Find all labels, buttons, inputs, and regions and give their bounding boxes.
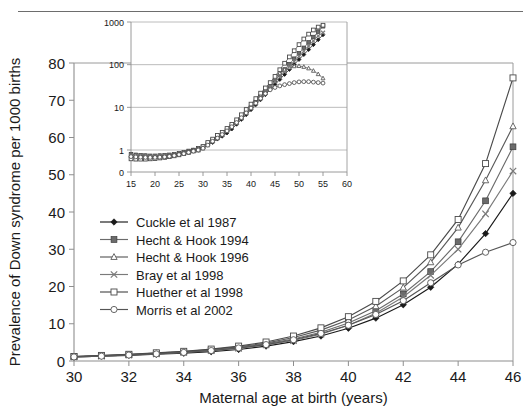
data-point-marker	[225, 129, 229, 133]
legend-item-5[interactable]: Morris et al 2002	[100, 303, 233, 318]
data-point-marker	[278, 84, 282, 88]
legend-item-3[interactable]: Bray et al 1998	[100, 268, 223, 283]
data-point-marker	[510, 190, 516, 196]
data-point-marker	[208, 347, 214, 353]
data-point-marker	[129, 155, 133, 159]
data-point-marker	[236, 345, 242, 351]
main-x-tick-label: 34	[175, 368, 192, 385]
data-point-marker	[345, 322, 351, 328]
data-point-marker	[307, 41, 311, 45]
main-x-axis-title: Maternal age at birth (years)	[199, 389, 387, 406]
main-x-tick-label: 38	[285, 368, 302, 385]
data-point-marker	[316, 81, 320, 85]
inset-x-tick-label: 15	[126, 179, 136, 189]
data-point-marker	[288, 55, 292, 59]
data-point-marker	[428, 252, 434, 258]
data-point-marker	[312, 35, 316, 39]
main-y-tick-label: 0	[57, 353, 65, 370]
data-point-marker	[215, 136, 219, 140]
data-point-marker	[292, 49, 296, 53]
main-x-tick-label: 36	[230, 368, 247, 385]
legend-item-2[interactable]: Hecht & Hook 1996	[100, 250, 249, 265]
data-point-marker	[111, 289, 117, 295]
data-point-marker	[196, 148, 200, 152]
data-point-marker	[510, 75, 516, 81]
data-point-marker	[254, 101, 258, 105]
inset-x-tick-label: 60	[342, 179, 352, 189]
data-point-marker	[111, 306, 117, 312]
data-point-marker	[455, 216, 461, 222]
data-point-marker	[111, 219, 117, 225]
legend-label: Morris et al 2002	[136, 303, 233, 318]
data-point-marker	[307, 32, 311, 36]
inset-x-tick-label: 25	[174, 179, 184, 189]
data-point-marker	[263, 342, 269, 348]
data-point-marker	[230, 125, 234, 129]
main-x-tick-label: 42	[395, 368, 412, 385]
data-point-marker	[182, 152, 186, 156]
data-point-marker	[263, 92, 267, 96]
data-point-marker	[259, 96, 263, 100]
data-point-marker	[455, 246, 461, 252]
data-point-marker	[191, 149, 195, 153]
data-point-marker	[302, 37, 306, 41]
data-point-marker	[259, 91, 263, 95]
data-point-marker	[249, 102, 253, 106]
data-point-marker	[249, 106, 253, 110]
data-point-marker	[278, 68, 282, 72]
data-point-marker	[153, 351, 159, 357]
legend-item-1[interactable]: Hecht & Hook 1994	[100, 233, 249, 248]
data-point-marker	[455, 224, 461, 230]
data-point-marker	[254, 97, 258, 101]
inset-x-tick-label: 45	[270, 179, 280, 189]
main-y-tick-label: 30	[48, 241, 65, 258]
data-point-marker	[311, 80, 315, 84]
legend-label: Bray et al 1998	[136, 268, 223, 283]
data-point-marker	[201, 146, 205, 150]
main-x-tick-label: 32	[121, 368, 138, 385]
main-x-tick-label: 44	[450, 368, 467, 385]
data-point-marker	[158, 155, 162, 159]
data-point-marker	[206, 143, 210, 147]
data-point-marker	[187, 150, 191, 154]
data-point-marker	[98, 353, 104, 359]
data-point-marker	[273, 86, 277, 90]
legend-item-4[interactable]: Huether et al 1998	[100, 285, 243, 300]
main-x-tick-label: 40	[340, 368, 357, 385]
data-point-marker	[143, 155, 147, 159]
data-point-marker	[400, 278, 406, 284]
legend-item-0[interactable]: Cuckle et al 1987	[100, 215, 236, 230]
figure-root: 01020304050607080303234363840424446Mater…	[0, 0, 529, 412]
inset-y-tick-label: 1	[119, 146, 124, 156]
inset-y-tick-label: 1000	[104, 18, 124, 28]
data-point-marker	[302, 80, 306, 84]
inset-x-tick-label: 30	[198, 179, 208, 189]
data-point-marker	[235, 121, 239, 125]
data-point-marker	[239, 116, 243, 120]
legend-label: Cuckle et al 1987	[136, 215, 236, 230]
data-point-marker	[211, 139, 215, 143]
data-point-marker	[455, 239, 461, 245]
data-point-marker	[134, 155, 138, 159]
inset-plot-area: 0110100100015202530354045505560	[104, 18, 352, 190]
inset-x-tick-label: 50	[294, 179, 304, 189]
data-point-marker	[312, 28, 316, 32]
legend-label: Hecht & Hook 1996	[136, 250, 249, 265]
legend-label: Huether et al 1998	[136, 285, 243, 300]
main-y-tick-label: 60	[48, 129, 65, 146]
data-point-marker	[483, 161, 489, 167]
data-point-marker	[283, 83, 287, 87]
main-x-tick-label: 30	[66, 368, 83, 385]
data-point-marker	[273, 75, 277, 79]
data-point-marker	[482, 249, 488, 255]
data-point-marker	[297, 43, 301, 47]
main-y-tick-label: 70	[48, 92, 65, 109]
data-point-marker	[220, 133, 224, 137]
data-point-marker	[268, 81, 272, 85]
main-y-axis-title: Prevalence of Down syndrome per 1000 bir…	[6, 58, 23, 367]
data-point-marker	[148, 155, 152, 159]
inset-y-tick-label: 10	[114, 103, 124, 113]
data-point-marker	[71, 354, 77, 360]
data-point-marker	[483, 198, 489, 204]
data-point-marker	[111, 237, 117, 243]
